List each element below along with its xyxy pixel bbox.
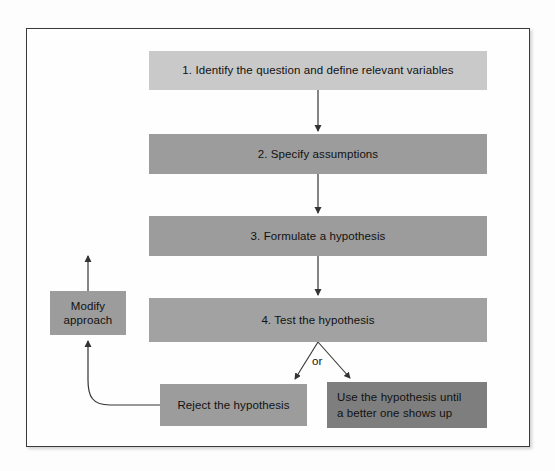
node-modify-approach[interactable]: Modify approach bbox=[50, 291, 126, 335]
node-step-2[interactable]: 2. Specify assumptions bbox=[149, 134, 487, 174]
node-use-hypothesis-line-2: a better one shows up bbox=[337, 405, 462, 421]
node-step-3[interactable]: 3. Formulate a hypothesis bbox=[149, 216, 487, 256]
node-use-hypothesis[interactable]: Use the hypothesis until a better one sh… bbox=[327, 382, 487, 428]
node-reject-hypothesis[interactable]: Reject the hypothesis bbox=[160, 384, 307, 426]
branch-or-label: or bbox=[312, 355, 322, 367]
node-step-4[interactable]: 4. Test the hypothesis bbox=[149, 298, 487, 342]
node-modify-approach-line-1: Modify bbox=[64, 299, 113, 313]
figure-page: 1. Identify the question and define rele… bbox=[0, 0, 555, 471]
node-step-1[interactable]: 1. Identify the question and define rele… bbox=[149, 51, 487, 90]
node-use-hypothesis-line-1: Use the hypothesis until bbox=[337, 389, 462, 405]
node-modify-approach-line-2: approach bbox=[64, 313, 113, 327]
